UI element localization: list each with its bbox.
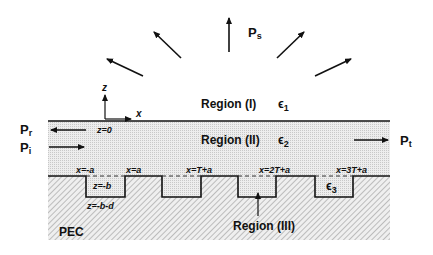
x-3T-label: x=3T+a [335,165,367,175]
x-a-label: x=a [125,165,141,175]
x-axis-label: x [135,108,142,119]
region-3-label: Region (III) [233,219,295,233]
grating-diagram: Ps z x Region (I) ϵ1 Region (II) ϵ2 z=0 … [0,0,433,255]
p-reflected-label: Pr [20,122,33,138]
eps-1: ϵ1 [278,97,289,113]
p-transmitted-label: Pt [400,133,412,149]
x-neg-a-label: x=-a [75,165,94,175]
z-b-label: z=-b [92,181,112,191]
z-axis-label: z [101,82,107,93]
region-2-label: Region (II) [201,133,260,147]
scattered-arrows [107,18,351,76]
axes-icon [105,95,131,119]
pec-label: PEC [59,225,84,239]
z-b-d-label: z=-b-d [86,201,114,211]
z0-label: z=0 [96,125,112,135]
p-scattered-label: Ps [248,25,262,41]
p-incident-label: Pi [20,140,31,156]
region-1-label: Region (I) [201,97,256,111]
x-T-label: x=T+a [185,165,212,175]
x-2T-label: x=2T+a [258,165,290,175]
